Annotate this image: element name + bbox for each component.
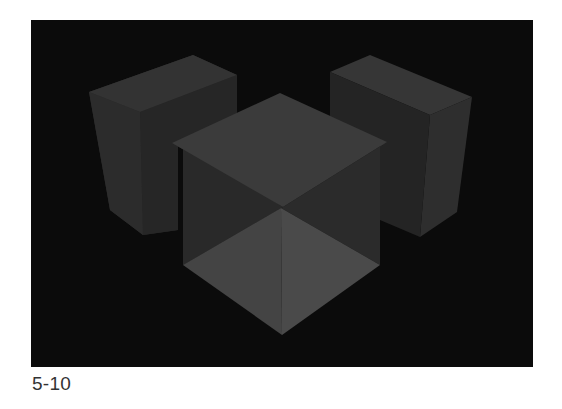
render-frame — [31, 20, 533, 367]
center-cube — [172, 93, 387, 335]
3d-scene — [31, 20, 533, 367]
figure-caption: 5-10 — [32, 373, 71, 395]
